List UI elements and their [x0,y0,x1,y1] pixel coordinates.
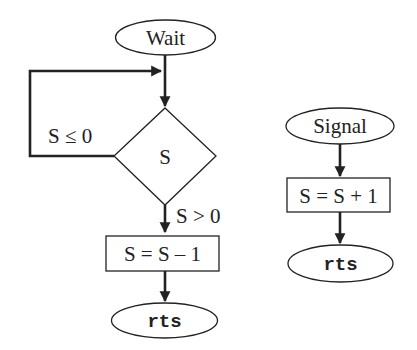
loop-condition-label: S ≤ 0 [48,124,92,148]
signal-label: Signal [313,114,367,138]
signal-rts-node: rts [288,245,393,282]
exit-condition-label: S > 0 [176,204,221,228]
signal-flow: Signal S = S + 1 rts [286,108,394,282]
decision-node: S [114,108,216,205]
increment-label: S = S + 1 [299,184,378,208]
wait-flow: Wait S S ≤ 0 S > 0 S = S – 1 rts [30,20,221,338]
flowchart-canvas: Wait S S ≤ 0 S > 0 S = S – 1 rts Signal … [0,0,417,350]
increment-action-node: S = S + 1 [287,178,390,212]
decrement-action-node: S = S – 1 [106,236,219,271]
signal-rts-label: rts [323,254,357,276]
wait-rts-node: rts [112,303,218,338]
decrement-label: S = S – 1 [124,242,201,266]
wait-start-node: Wait [116,20,216,55]
wait-label: Wait [146,26,185,50]
signal-start-node: Signal [286,108,394,144]
wait-rts-label: rts [147,311,181,333]
decision-label: S [159,145,171,169]
